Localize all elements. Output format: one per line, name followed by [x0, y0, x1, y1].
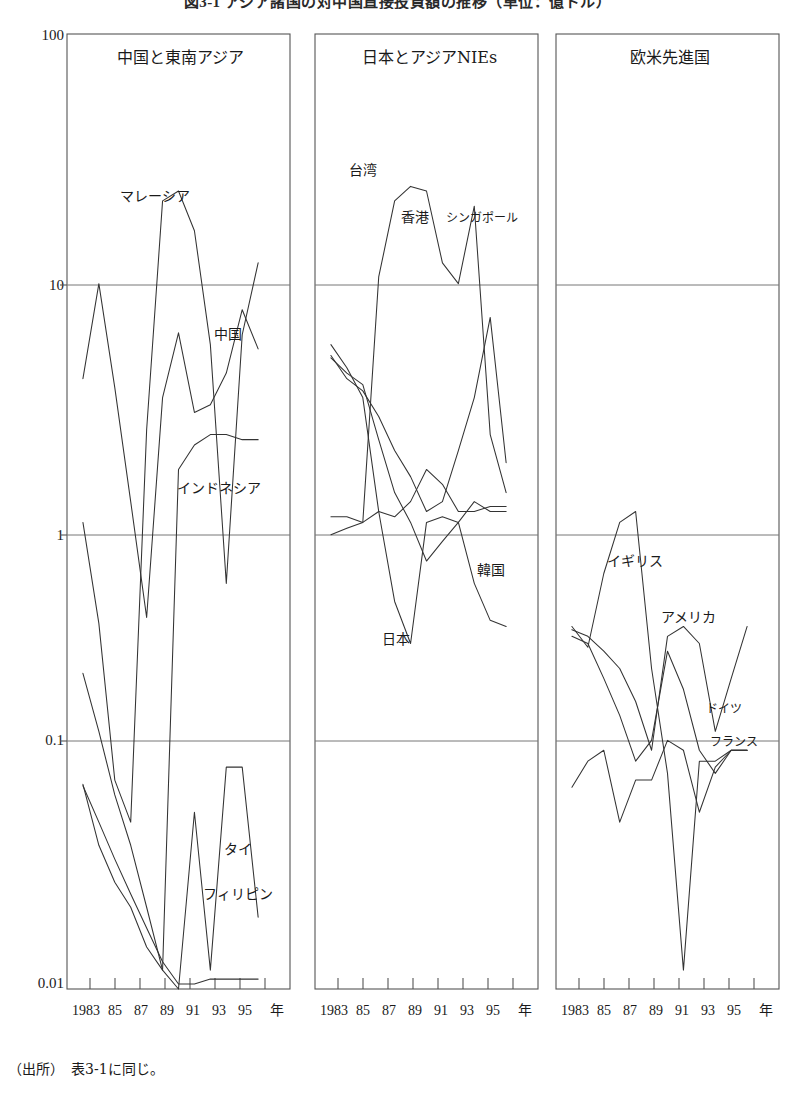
x-tick-label-p1-93: 93: [212, 1004, 226, 1018]
series-label-indonesia: インドネシア: [177, 477, 261, 497]
x-tick-label-p1-95: 95: [238, 1004, 252, 1018]
chart-svg: [0, 0, 795, 1100]
x-tick-label-p2-85: 85: [356, 1004, 370, 1018]
series-line-韓国: [331, 358, 506, 561]
series-label-korea: 韓国: [477, 559, 505, 579]
x-tick-label-p2-89: 89: [408, 1004, 422, 1018]
series-line-香港: [331, 469, 506, 522]
series-polylines: [83, 186, 747, 989]
x-tick-label-p3-93: 93: [701, 1004, 715, 1018]
series-label-usa: アメリカ: [661, 606, 716, 626]
panel-frames: [67, 34, 779, 989]
series-label-uk: イギリス: [607, 550, 663, 570]
x-tick-label-p3-85: 85: [597, 1004, 611, 1018]
series-label-singapore: シンガポール: [446, 208, 518, 225]
series-label-malaysia: マレーシア: [120, 185, 190, 205]
x-tick-label-p1-89: 89: [160, 1004, 174, 1018]
x-tick-label-p3-87: 87: [623, 1004, 637, 1018]
series-label-thailand: タイ: [224, 838, 252, 858]
x-tick-label-p1-87: 87: [134, 1004, 148, 1018]
x-axis-unit-p3: 年: [759, 1004, 773, 1018]
series-label-germany: ドイツ: [706, 699, 742, 716]
x-tick-label-p2-93: 93: [460, 1004, 474, 1018]
series-line-シンガポール: [331, 317, 506, 511]
x-tick-label-p1-85: 85: [108, 1004, 122, 1018]
x-tick-label-p3-95: 95: [727, 1004, 741, 1018]
series-line-台湾: [331, 186, 506, 534]
series-label-taiwan: 台湾: [349, 159, 377, 179]
x-axis-unit-p2: 年: [518, 1004, 532, 1018]
x-tick-label-p2-95: 95: [486, 1004, 500, 1018]
series-label-hongkong: 香港: [401, 206, 429, 226]
x-tick-label-p2-87: 87: [382, 1004, 396, 1018]
source-note: （出所） 表3-1に同じ。: [8, 1058, 164, 1078]
series-label-japan: 日本: [382, 628, 410, 648]
y-axis-ticks: [60, 285, 67, 741]
series-label-china: 中国: [214, 323, 242, 343]
x-tick-label-p2-1983: 1983: [320, 1004, 348, 1018]
series-line-フランス: [572, 740, 747, 822]
x-tick-label-p3-91: 91: [675, 1004, 689, 1018]
chart-plot-area: 100 10 1 0.1 0.01 中国と東南アジア 日本とアジアNIEs 欧米…: [0, 0, 795, 1100]
x-axis-unit-p1: 年: [270, 1004, 284, 1018]
x-tick-label-p3-1983: 1983: [561, 1004, 589, 1018]
x-tick-label-p1-91: 91: [186, 1004, 200, 1018]
x-tick-label-p3-89: 89: [649, 1004, 663, 1018]
x-tick-label-p1-1983: 1983: [72, 1004, 100, 1018]
series-label-philippines: フィリピン: [203, 883, 273, 903]
series-label-france: フランス: [710, 732, 758, 749]
x-tick-label-p2-91: 91: [434, 1004, 448, 1018]
